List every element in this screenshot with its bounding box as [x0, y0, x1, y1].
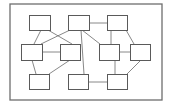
node-box-n4	[22, 45, 43, 61]
network-diagram	[0, 0, 171, 107]
node-box-n3	[108, 16, 128, 31]
node-box-n9	[69, 75, 89, 90]
node-box-n2	[69, 16, 90, 31]
node-box-n6	[100, 45, 120, 61]
node-box-n5	[61, 45, 81, 61]
node-box-n10	[108, 75, 128, 90]
node-box-n1	[30, 16, 51, 31]
node-box-n8	[30, 75, 50, 90]
node-box-n7	[131, 45, 151, 61]
